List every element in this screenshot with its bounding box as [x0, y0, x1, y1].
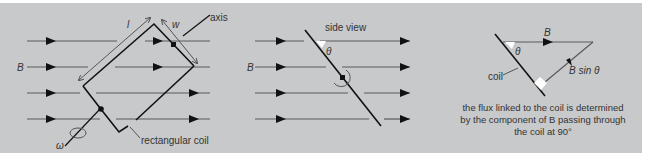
- field-lines: [27, 41, 210, 119]
- caption-line-1: the flux linked to the coil is determine…: [462, 102, 623, 113]
- side-view-diagram: B side view θ: [247, 22, 410, 126]
- axis-label: axis: [210, 12, 228, 23]
- axis-pivot: [340, 75, 345, 80]
- field-label: B: [247, 62, 254, 73]
- coil-label: rectangular coil: [141, 135, 209, 146]
- side-view-title: side view: [325, 22, 367, 33]
- field-arrow-icon: [543, 38, 553, 46]
- caption-line-3: the coil at 90°: [514, 126, 572, 137]
- axis-pivot-bottom: [98, 106, 104, 112]
- rectangular-coil: [83, 24, 194, 132]
- field-label: B: [544, 27, 551, 38]
- omega-label: ω: [56, 140, 64, 151]
- field-arrow-icons: [46, 37, 199, 123]
- angle-label: θ: [515, 46, 521, 57]
- coil-label: coil: [488, 71, 503, 82]
- coil-edge: [495, 34, 545, 96]
- caption-line-2: by the component of B passing through: [460, 114, 625, 125]
- field-lines: [255, 41, 410, 119]
- rotation-axis: [65, 15, 210, 146]
- rotating-coil-diagram: B l w axis ω rectangular coil: [17, 12, 228, 151]
- right-angle-marker: [534, 77, 547, 90]
- diagram-canvas: B l w axis ω rectangular coil: [0, 0, 646, 158]
- flux-component-diagram: B θ B sin θ coil the flux linked to the …: [460, 27, 625, 137]
- width-label: w: [172, 19, 180, 30]
- component-label: B sin θ: [569, 65, 600, 76]
- angle-label: θ: [326, 46, 332, 57]
- dimension-l: [79, 18, 150, 80]
- axis-pivot-top: [171, 42, 176, 47]
- length-label: l: [127, 19, 130, 30]
- field-label: B: [17, 62, 24, 73]
